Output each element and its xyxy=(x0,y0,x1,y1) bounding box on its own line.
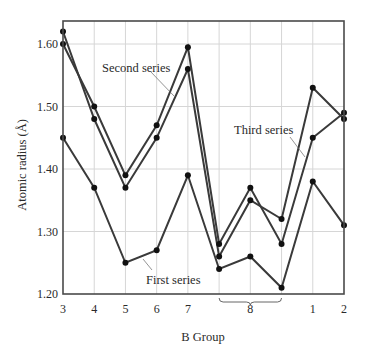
first-series-marker xyxy=(91,185,97,191)
third-series-marker xyxy=(310,135,316,141)
second-series-marker xyxy=(185,66,191,72)
first-series-marker xyxy=(122,260,128,266)
x-tick-label: 5 xyxy=(122,302,128,316)
third-series-marker xyxy=(91,104,97,110)
third-series-marker xyxy=(154,122,160,128)
x-axis-ticks: 34567812 xyxy=(60,298,347,316)
y-tick-label: 1.20 xyxy=(37,287,58,301)
second-series-marker xyxy=(91,116,97,122)
x-tick-label: 3 xyxy=(60,302,66,316)
x-tick-label: 7 xyxy=(185,302,191,316)
third-series-label: Third series xyxy=(234,123,293,137)
first-series-label: First series xyxy=(146,273,201,287)
third-series-marker xyxy=(279,241,285,247)
third-series-marker xyxy=(216,241,222,247)
third-series-marker xyxy=(185,44,191,50)
series-annotations: Second seriesThird seriesFirst series xyxy=(102,61,305,287)
x-axis-label: B Group xyxy=(181,330,224,344)
y-tick-label: 1.30 xyxy=(37,225,58,239)
second-series-marker xyxy=(154,135,160,141)
y-tick-label: 1.50 xyxy=(37,100,58,114)
first-series-marker xyxy=(279,285,285,291)
second-series-marker xyxy=(122,185,128,191)
first-series-marker xyxy=(216,266,222,272)
first-series-marker xyxy=(310,179,316,185)
first-series-marker xyxy=(154,247,160,253)
first-series-leader-line xyxy=(143,259,152,270)
first-series-marker xyxy=(247,254,253,260)
first-series-marker xyxy=(185,172,191,178)
second-series-marker xyxy=(247,197,253,203)
y-tick-label: 1.40 xyxy=(37,162,58,176)
x-tick-label: 2 xyxy=(341,302,347,316)
second-series-marker xyxy=(310,85,316,91)
second-series-marker xyxy=(279,216,285,222)
third-series-marker xyxy=(122,172,128,178)
x-tick-label: 6 xyxy=(154,302,160,316)
x-tick-label: 1 xyxy=(310,302,316,316)
second-series-label: Second series xyxy=(102,61,171,75)
atomic-radius-chart: 1.201.301.401.501.60 34567812 Second ser… xyxy=(0,0,366,351)
third-series-marker xyxy=(247,185,253,191)
y-axis-label: Atomic radius (Å) xyxy=(15,119,29,211)
x-tick-label: 4 xyxy=(91,302,97,316)
y-tick-label: 1.60 xyxy=(37,37,58,51)
y-axis-ticks: 1.201.301.401.501.60 xyxy=(37,37,58,301)
second-series-marker xyxy=(216,254,222,260)
